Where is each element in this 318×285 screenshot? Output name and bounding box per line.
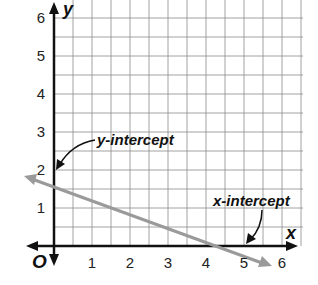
y-intercept-label: y-intercept xyxy=(96,131,175,148)
origin-label: O xyxy=(32,251,47,272)
y-axis-label: y xyxy=(62,0,74,19)
y-axis-up-arrow-icon xyxy=(49,2,59,14)
x-axis-label: x xyxy=(285,223,297,243)
x-tick-3: 3 xyxy=(164,254,172,271)
x-tick-5: 5 xyxy=(240,254,248,271)
line-right-arrow-icon xyxy=(258,256,272,267)
x-tick-2: 2 xyxy=(126,254,134,271)
y-intercept-arrowhead-icon xyxy=(56,159,65,170)
x-tick-4: 4 xyxy=(202,254,210,271)
x-intercept-label: x-intercept xyxy=(212,192,291,209)
x-intercept-pointer xyxy=(250,210,262,240)
y-tick-6: 6 xyxy=(37,9,45,26)
x-tick-6: 6 xyxy=(278,254,286,271)
y-tick-1: 1 xyxy=(37,199,45,216)
coordinate-graph: 1 2 3 4 5 6 1 2 3 4 5 6 y x O y-intercep… xyxy=(0,0,318,285)
y-axis-down-arrow-icon xyxy=(49,254,59,266)
grid-lines xyxy=(54,0,303,246)
line-left-arrow-icon xyxy=(24,174,37,185)
y-intercept-pointer xyxy=(60,140,95,164)
x-axis-left-arrow-icon xyxy=(26,241,38,251)
x-tick-1: 1 xyxy=(88,254,96,271)
y-tick-3: 3 xyxy=(37,123,45,140)
y-tick-5: 5 xyxy=(37,47,45,64)
y-tick-4: 4 xyxy=(37,85,45,102)
y-tick-2: 2 xyxy=(37,161,45,178)
